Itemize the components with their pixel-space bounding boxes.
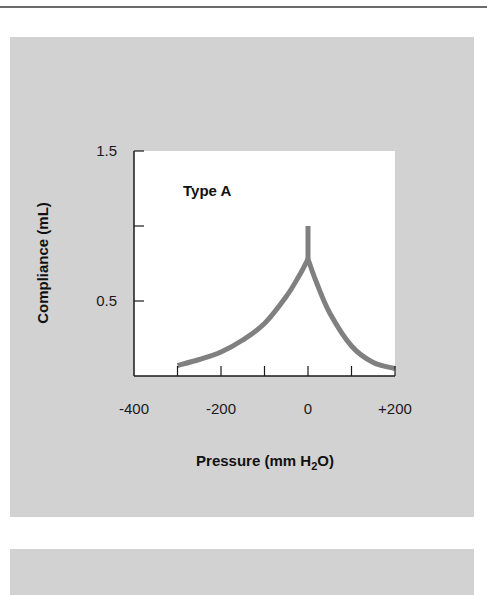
y-tick-labels: 1.50.5 [96, 142, 117, 309]
x-tick-label: -200 [206, 400, 236, 417]
x-axis-title: Pressure (mm H2O) [196, 452, 334, 472]
type-label: Type A [183, 182, 232, 199]
y-tick-label: 0.5 [96, 292, 117, 309]
plot-area [134, 151, 395, 376]
y-axis-title: Compliance (mL) [34, 202, 51, 324]
x-tick-label: +200 [378, 400, 412, 417]
x-tick-label: -400 [119, 400, 149, 417]
x-tick-label: 0 [304, 400, 312, 417]
y-tick-label: 1.5 [96, 142, 117, 159]
tympanogram-chart: Type A -400-2000+200 1.50.5 Pressure (mm… [0, 0, 487, 595]
x-tick-labels: -400-2000+200 [119, 400, 412, 417]
